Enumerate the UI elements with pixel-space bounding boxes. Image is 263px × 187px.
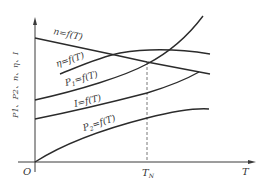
curve-p2 (35, 109, 209, 162)
label-p1: P1=f(T) (63, 69, 100, 89)
label-p2: P2=f(T) (81, 113, 118, 134)
curve-n (35, 38, 210, 74)
label-i: I=f(T) (72, 92, 103, 109)
x-axis-label: T (242, 166, 250, 177)
y-axis-arrow-icon (33, 17, 37, 25)
motor-characteristics-chart: n=f(T) η=f(T) P1=f(T) I=f(T) P2=f(T) P1、… (0, 0, 263, 187)
origin-label: O (23, 166, 31, 177)
x-axis-arrow-icon (248, 160, 256, 164)
label-n: n=f(T) (53, 26, 85, 42)
rated-torque-label: TN (142, 167, 155, 179)
y-axis-label: P1、P2、n、η、I (11, 51, 20, 119)
axes (18, 17, 256, 172)
